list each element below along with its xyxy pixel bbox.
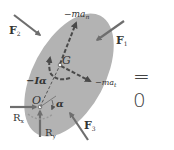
reaction-ry-label: Ry — [45, 128, 56, 139]
reaction-rx-label: Rx — [13, 113, 24, 124]
force-f2-label: F2 — [9, 25, 21, 37]
inertial-force-tangential-label: −mat — [95, 79, 116, 88]
pivot-label: O — [32, 95, 41, 106]
force-f3-label: F3 — [84, 120, 96, 132]
center-of-mass-label: G — [62, 55, 71, 66]
free-body-diagram: F2 F1 F3 Rx Ry −man −mat −Iα G O α = 0 — [0, 0, 174, 150]
angle-alpha-label: α — [56, 99, 64, 109]
inertial-force-normal-label: −man — [64, 10, 89, 20]
force-f1-label: F1 — [116, 35, 128, 47]
inertial-moment-label: −Iα — [26, 76, 47, 86]
equation-equals-zero: = 0 — [133, 64, 174, 112]
